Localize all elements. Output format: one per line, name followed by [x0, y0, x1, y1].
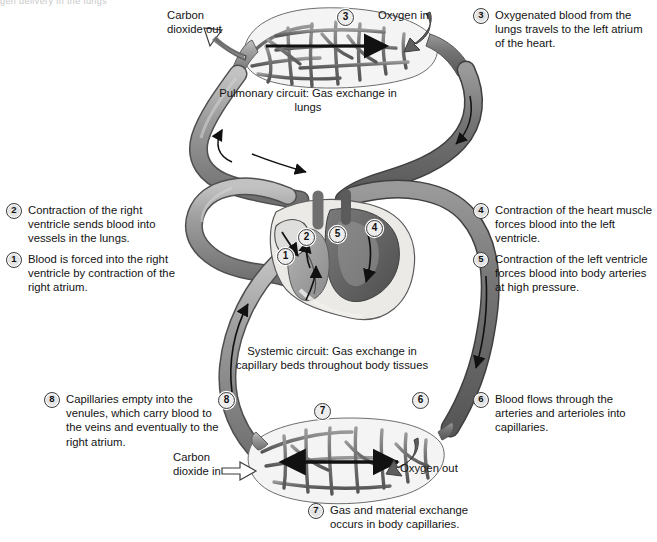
callout-number-3: 3	[473, 8, 489, 24]
label-systemic-circuit: Systemic circuit: Gas exchange in capill…	[206, 344, 458, 372]
callout-6: 6 Blood flows through the arteries and a…	[473, 392, 653, 435]
callout-number-5: 5	[473, 252, 489, 268]
label-pulmonary-circuit: Pulmonary circuit: Gas exchange in lungs	[192, 86, 424, 114]
figure-marker-3: 3	[337, 9, 354, 26]
label-oxygen-out: Oxygen out	[400, 461, 458, 475]
figure-marker-4: 4	[366, 220, 383, 237]
callout-7: 7 Gas and material exchange occurs in bo…	[308, 503, 508, 531]
callout-text-6: Blood flows through the arteries and art…	[495, 392, 653, 435]
callout-text-2: Contraction of the right ventricle sends…	[28, 203, 186, 246]
callout-number-7: 7	[308, 503, 324, 519]
circulatory-system-figure: gen delivery in the lungs	[0, 0, 657, 542]
label-carbon-dioxide-in: Carbon dioxide in	[173, 450, 255, 478]
label-carbon-dioxide-out: Carbon dioxide out	[167, 8, 247, 36]
figure-marker-7: 7	[314, 403, 331, 420]
callout-number-6: 6	[473, 392, 489, 408]
callout-1: 1 Blood is forced into the right ventric…	[6, 252, 192, 295]
callout-text-7: Gas and material exchange occurs in body…	[330, 503, 498, 531]
callout-3: 3 Oxygenated blood from the lungs travel…	[473, 8, 653, 51]
callout-text-3: Oxygenated blood from the lungs travels …	[495, 8, 653, 51]
callout-text-8: Capillaries empty into the venules, whic…	[66, 392, 224, 449]
figure-marker-2: 2	[298, 229, 315, 246]
callout-text-4: Contraction of the heart muscle forces b…	[495, 203, 657, 246]
label-oxygen-in: Oxygen in	[378, 8, 429, 22]
callout-number-2: 2	[6, 203, 22, 219]
callout-2: 2 Contraction of the right ventricle sen…	[6, 203, 186, 246]
callout-5: 5 Contraction of the left ventricle forc…	[473, 252, 657, 295]
callout-number-1: 1	[6, 252, 22, 268]
callout-text-5: Contraction of the left ventricle forces…	[495, 252, 657, 295]
callout-text-1: Blood is forced into the right ventricle…	[28, 252, 192, 295]
callout-4: 4 Contraction of the heart muscle forces…	[473, 203, 657, 246]
figure-marker-8: 8	[218, 392, 235, 409]
callout-8: 8 Capillaries empty into the venules, wh…	[44, 392, 224, 449]
callout-number-8: 8	[44, 392, 60, 408]
figure-marker-5: 5	[329, 226, 346, 243]
callout-number-4: 4	[473, 203, 489, 219]
figure-marker-6: 6	[412, 392, 429, 409]
figure-marker-1: 1	[277, 248, 294, 265]
